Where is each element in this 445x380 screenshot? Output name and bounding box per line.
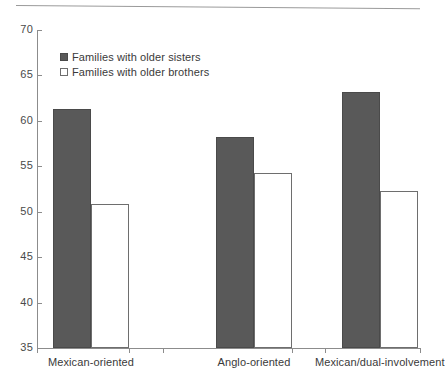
legend-item-older-sisters: Families with older sisters <box>60 50 209 64</box>
y-tick-label: 70 <box>5 24 33 35</box>
y-tick-label-wrap: 35 <box>0 342 33 353</box>
legend-swatch-dark-icon <box>60 53 68 61</box>
y-tick-label: 65 <box>5 69 33 80</box>
y-tick-label-wrap: 65 <box>0 69 33 80</box>
y-tick-mark <box>37 212 42 213</box>
y-tick-label-wrap: 70 <box>0 24 33 35</box>
legend-label-older-brothers: Families with older brothers <box>72 66 209 78</box>
y-tick-mark <box>37 30 42 31</box>
y-tick-mark <box>37 257 42 258</box>
legend-item-older-brothers: Families with older brothers <box>60 65 209 79</box>
y-tick-label-wrap: 50 <box>0 206 33 217</box>
y-tick-mark <box>37 75 42 76</box>
y-tick-label: 35 <box>5 342 33 353</box>
bar-older-sisters <box>216 137 254 348</box>
y-axis-line <box>37 30 38 348</box>
legend-swatch-light-icon <box>60 68 68 76</box>
bar-older-brothers <box>254 173 292 348</box>
y-tick-label: 40 <box>5 297 33 308</box>
x-axis-category-label: Mexican-oriented <box>48 356 134 368</box>
bar-older-sisters <box>53 109 91 348</box>
x-tick-mark <box>163 348 164 353</box>
y-tick-label: 60 <box>5 115 33 126</box>
y-tick-label: 50 <box>5 206 33 217</box>
bar-older-brothers <box>380 191 418 348</box>
y-tick-mark <box>37 121 42 122</box>
y-tick-label-wrap: 40 <box>0 297 33 308</box>
x-tick-mark <box>129 348 130 353</box>
x-axis-category-label: Mexican/dual-involvement <box>315 356 445 368</box>
y-tick-label: 45 <box>5 251 33 262</box>
y-tick-mark <box>37 166 42 167</box>
x-axis-line <box>37 348 420 349</box>
x-tick-mark <box>292 348 293 353</box>
x-tick-mark <box>420 348 421 353</box>
y-tick-label: 55 <box>5 160 33 171</box>
y-tick-mark <box>37 303 42 304</box>
legend-label-older-sisters: Families with older sisters <box>72 51 201 63</box>
y-tick-label-wrap: 60 <box>0 115 33 126</box>
bar-older-brothers <box>91 204 129 348</box>
bar-older-sisters <box>342 92 380 348</box>
x-axis-category-label: Anglo-oriented <box>218 356 291 368</box>
x-tick-mark <box>37 348 38 353</box>
x-tick-mark <box>325 348 326 353</box>
chart-legend: Families with older sisters Families wit… <box>60 50 209 80</box>
y-tick-label-wrap: 45 <box>0 251 33 262</box>
y-tick-label-wrap: 55 <box>0 160 33 171</box>
